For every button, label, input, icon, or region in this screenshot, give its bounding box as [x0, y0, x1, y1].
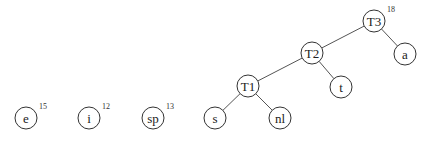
- node-weight: 18: [387, 5, 395, 14]
- edge-T1-nl: [256, 94, 272, 110]
- node-label: t: [339, 80, 343, 95]
- node-label: T3: [367, 14, 381, 29]
- tree-node-T1: T1: [237, 75, 259, 97]
- tree-node-a: a: [394, 43, 416, 65]
- node-label: sp: [147, 111, 159, 126]
- tree-node-nl: nl: [269, 107, 291, 129]
- node-label: T2: [305, 46, 319, 61]
- node-weight: 12: [102, 102, 110, 111]
- tree-node-T3: T318: [363, 5, 395, 32]
- tree-node-t: t: [330, 76, 352, 98]
- node-weight: 15: [39, 102, 47, 111]
- node-label: e: [23, 111, 29, 126]
- tree-node-i: i12: [78, 102, 110, 129]
- tree-edges: [223, 26, 398, 110]
- node-label: s: [212, 111, 217, 126]
- edge-T3-T2: [322, 26, 364, 48]
- edge-T1-s: [223, 94, 240, 111]
- tree-node-s: s: [204, 107, 226, 129]
- huffman-forest-diagram: e15i12sp13snlT1tT2aT318: [0, 0, 435, 142]
- node-label: i: [87, 111, 91, 126]
- tree-nodes: e15i12sp13snlT1tT2aT318: [15, 5, 416, 129]
- node-weight: 13: [166, 102, 174, 111]
- edge-T3-a: [382, 29, 398, 46]
- edge-T2-t: [319, 61, 334, 78]
- node-label: a: [402, 47, 408, 62]
- tree-node-e: e15: [15, 102, 47, 129]
- tree-node-sp: sp13: [142, 102, 174, 129]
- node-label: T1: [241, 79, 255, 94]
- node-label: nl: [275, 111, 286, 126]
- tree-node-T2: T2: [301, 42, 323, 64]
- edge-T2-T1: [258, 58, 302, 81]
